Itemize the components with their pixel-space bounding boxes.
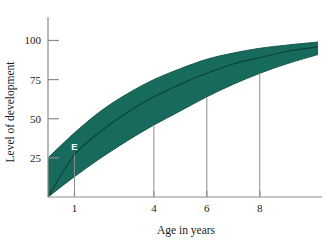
y-tick-label-50: 50	[30, 113, 42, 125]
x-axis-tick-labels: 1468	[72, 202, 263, 214]
y-axis-ticks	[48, 40, 59, 157]
x-tick-label-1: 1	[72, 202, 78, 214]
y-tick-label-25: 25	[30, 152, 42, 164]
x-axis-ticks	[74, 191, 259, 197]
x-tick-label-8: 8	[257, 202, 263, 214]
y-tick-label-100: 100	[25, 34, 42, 46]
development-band	[48, 42, 318, 197]
y-axis-tick-labels: 255075100	[25, 34, 42, 163]
x-axis-title: Age in years	[157, 224, 216, 237]
x-tick-label-6: 6	[204, 202, 210, 214]
x-tick-label-4: 4	[151, 202, 157, 214]
plot-area	[48, 42, 318, 197]
development-chart: 255075100 1468 E Age in years Level of d…	[0, 0, 328, 243]
y-tick-label-75: 75	[30, 74, 42, 86]
y-axis-title: Level of development	[4, 61, 17, 163]
chart-canvas: 255075100 1468 E Age in years Level of d…	[0, 0, 328, 243]
annotation-label-E: E	[71, 141, 77, 152]
